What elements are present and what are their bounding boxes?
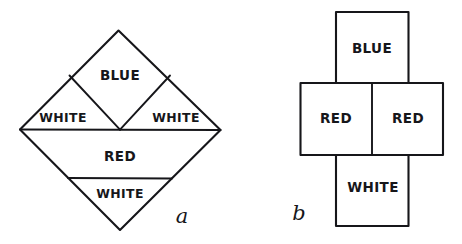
figure-a-white-bottom-label: WHITE <box>96 186 144 201</box>
figure-b-white-label: WHITE <box>347 179 399 195</box>
figure-b-red-left-label: RED <box>320 110 352 126</box>
figure-group: BLUE WHITE WHITE RED WHITE a BLUE RED RE… <box>0 0 462 244</box>
figure-b-red-right-label: RED <box>392 110 424 126</box>
figure-a: BLUE WHITE WHITE RED WHITE a <box>20 31 221 231</box>
figure-a-white-left-label: WHITE <box>39 110 87 125</box>
diagram-canvas: BLUE WHITE WHITE RED WHITE a BLUE RED RE… <box>0 0 462 244</box>
figure-a-white-right-label: WHITE <box>152 110 200 125</box>
figure-b-blue-label: BLUE <box>352 40 392 56</box>
figure-a-red-white-divider <box>68 178 172 179</box>
figure-a-caption: a <box>176 204 189 228</box>
figure-b: BLUE RED RED WHITE b <box>292 12 443 226</box>
figure-a-red-label: RED <box>104 148 136 164</box>
figure-b-caption: b <box>292 201 305 225</box>
figure-a-blue-label: BLUE <box>100 67 140 83</box>
